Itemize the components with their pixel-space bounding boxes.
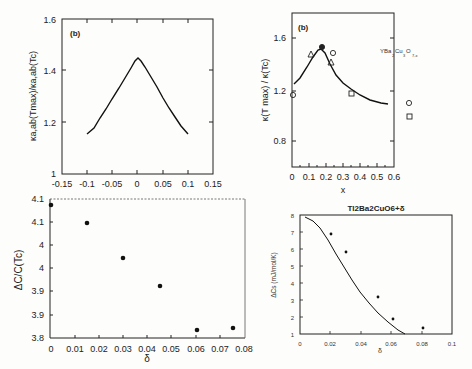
triangle-marker	[308, 51, 314, 57]
y-tick-label: 3.9	[31, 286, 44, 296]
x-tick-label: 0.6	[388, 172, 401, 182]
x-axis-label: δ	[144, 353, 150, 364]
x-tick-label: 0.1	[182, 179, 195, 189]
svg-text:YBa: YBa	[380, 48, 392, 54]
x-tick-label: 0.05	[162, 344, 180, 354]
y-tick-label: 6	[291, 247, 295, 253]
y-tick-label: 4.1	[31, 194, 44, 204]
x-tick-label: 0	[134, 179, 139, 189]
y-tick-label: 0.8	[273, 136, 286, 146]
y-tick-label: 1.2	[273, 86, 286, 96]
chart-top-right: (b) 1.6 1.2 0.8 0 0.1 0.2 0.3 0.4 0.5 0.…	[260, 13, 418, 195]
series-line	[87, 58, 188, 134]
y-axis-label: ΔC/C(Tc)	[13, 250, 24, 291]
compound-annotation: YBa 2 Cu 3 O 7-x	[380, 48, 418, 58]
y-tick-label: 4	[291, 281, 295, 287]
circle-marker	[330, 50, 335, 55]
panel-tag: (b)	[298, 23, 309, 32]
y-tick-label: 4	[39, 240, 44, 250]
y-axis-label: ΔCs (mJ/mol/K)	[270, 252, 278, 298]
svg-text:7-x: 7-x	[412, 53, 418, 58]
circle-marker	[406, 100, 411, 105]
y-tick-label: 3.9	[31, 310, 44, 320]
x-tick-label: 0.02	[90, 344, 108, 354]
x-tick-label: 0	[289, 172, 294, 182]
x-tick-label: 0.06	[385, 341, 397, 347]
y-tick-label: 5	[291, 264, 295, 270]
circle-marker	[290, 92, 295, 97]
x-tick-label: 0.1	[448, 341, 457, 347]
y-axis-label: κa,ab(Tmax)/κa,ab(Tc)	[28, 51, 38, 141]
x-tick-label: 0.3	[337, 172, 350, 182]
y-tick-label: 4	[39, 263, 44, 273]
svg-text:O: O	[406, 48, 411, 54]
y-tick-label: 1.2	[43, 118, 56, 128]
x-tick-label: 0.07	[211, 344, 229, 354]
x-tick-label: 0.02	[324, 341, 336, 347]
x-tick-label: 0.4	[354, 172, 367, 182]
plot-frame	[62, 19, 213, 174]
y-axis-label: κ(T max) / κ(Tc)	[260, 59, 270, 121]
x-tick-label: 0.08	[416, 341, 428, 347]
y-tick-label: 7	[291, 230, 295, 236]
square-marker	[407, 114, 412, 119]
y-tick-label: 3.8	[31, 333, 44, 343]
x-axis-label: δ	[378, 347, 382, 354]
x-tick-label: 0.1	[303, 172, 316, 182]
y-tick-label: 1.6	[43, 15, 56, 25]
data-points	[49, 203, 236, 333]
chart-bottom-left: 4.1 4.1 4 4 3.9 3.9 3.8 0 0.01 0.02 0.03…	[13, 194, 253, 364]
x-tick-label: -0.05	[102, 179, 123, 189]
data-points	[330, 233, 425, 330]
x-tick-label: 0.05	[154, 179, 172, 189]
chart-bottom-right: Tl2Ba2CuO6+δ 8 7 6 5 4 3 2 1 0 0.02 0.04…	[270, 204, 457, 354]
figure-canvas: (b) 1.6 1.4 1.2 1 -0.15 -0.1 -0.05 0 0.0…	[0, 0, 472, 369]
square-marker	[349, 91, 354, 96]
y-tick-label: 8	[291, 213, 295, 219]
x-ticks	[62, 19, 213, 174]
x-tick-label: 0.08	[235, 344, 253, 354]
x-tick-label: 0.04	[355, 341, 367, 347]
chart-title: Tl2Ba2CuO6+δ	[347, 204, 404, 213]
circle-marker	[319, 44, 324, 49]
x-tick-label: -0.15	[52, 179, 73, 189]
y-tick-label: 1	[291, 332, 295, 338]
y-tick-label: 1.6	[273, 33, 286, 43]
x-tick-label: 0.01	[66, 344, 84, 354]
x-tick-label: 0.5	[371, 172, 384, 182]
fit-line	[305, 217, 405, 334]
plot-frame	[292, 13, 394, 167]
svg-text:Cu: Cu	[395, 48, 403, 54]
y-tick-label: 1	[51, 169, 56, 179]
x-tick-label: 0.06	[187, 344, 205, 354]
x-tick-label: 0.2	[320, 172, 333, 182]
x-tick-label: 0.03	[114, 344, 132, 354]
x-tick-label: 0	[298, 341, 302, 347]
x-tick-label: -0.1	[79, 179, 95, 189]
y-tick-label: 1.4	[43, 66, 56, 76]
x-axis-label: x	[341, 185, 346, 195]
x-tick-label: 0.15	[204, 179, 222, 189]
panel-tag: (b)	[70, 29, 81, 38]
y-tick-label: 2	[291, 315, 295, 321]
chart-top-left: (b) 1.6 1.4 1.2 1 -0.15 -0.1 -0.05 0 0.0…	[28, 15, 222, 189]
y-tick-label: 4.1	[31, 217, 44, 227]
x-tick-label: 0	[48, 344, 53, 354]
y-tick-label: 3	[291, 298, 295, 304]
